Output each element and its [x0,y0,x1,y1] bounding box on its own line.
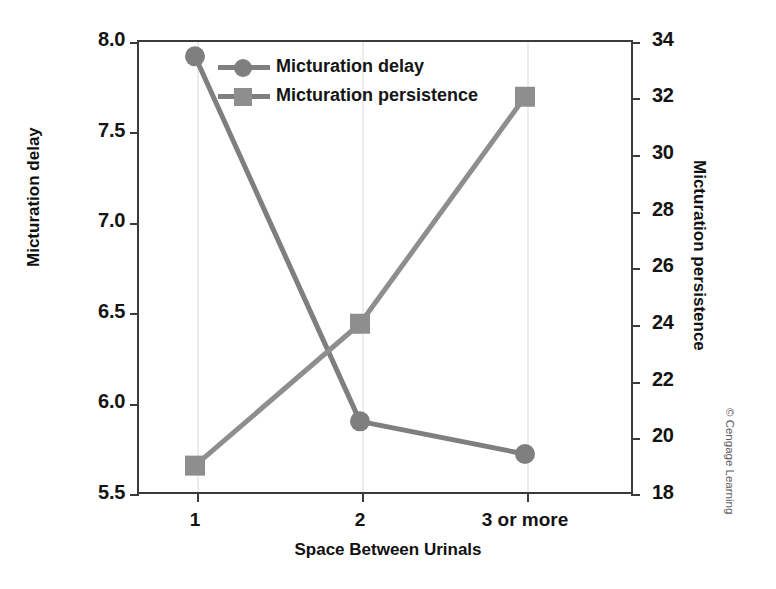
right-axis-tick [631,268,640,270]
left-tick-label: 6.0 [55,390,125,413]
gridline-vertical [527,42,529,492]
x-tick-label: 2 [355,509,366,531]
legend-item-micturation-delay: Micturation delay [218,52,478,81]
left-tick-label: 7.5 [55,119,125,142]
right-tick-label: 18 [652,481,722,504]
left-axis-tick [130,223,139,225]
left-tick-label: 6.5 [55,300,125,323]
right-tick-label: 20 [652,424,722,447]
x-axis-tick [197,492,199,502]
circle-marker-icon [234,59,252,77]
x-tick-label: 3 or more [482,509,569,531]
right-axis-tick [631,438,640,440]
legend-item-micturation-persistence: Micturation persistence [218,81,478,110]
left-tick-label: 7.0 [55,209,125,232]
right-axis-tick [631,382,640,384]
chart-figure: 8.0 7.5 7.0 6.5 6.0 5.5 34 32 30 28 26 2… [0,0,776,589]
right-tick-label: 28 [652,198,722,221]
legend-swatch-circle [218,57,270,77]
right-axis-tick [631,98,640,100]
chart-legend: Micturation delay Micturation persistenc… [218,52,478,110]
legend-label: Micturation delay [276,56,424,77]
x-axis-title: Space Between Urinals [0,540,776,560]
right-tick-label: 34 [652,28,722,51]
left-axis-tick [130,313,139,315]
legend-label: Micturation persistence [276,85,478,106]
right-axis-tick [631,212,640,214]
square-marker-icon [234,88,252,106]
left-tick-label: 5.5 [55,481,125,504]
legend-swatch-square [218,86,270,106]
right-tick-label: 24 [652,311,722,334]
right-axis-tick [631,325,640,327]
right-tick-label: 26 [652,254,722,277]
gridline-vertical [197,42,199,492]
left-axis-tick [130,132,139,134]
right-axis-title: Micturation persistence [689,160,709,351]
right-tick-label: 22 [652,368,722,391]
left-axis-tick [130,42,139,44]
left-tick-label: 8.0 [55,28,125,51]
right-axis-tick [631,155,640,157]
x-axis-tick [362,492,364,502]
right-tick-label: 32 [652,84,722,107]
right-axis-tick [631,42,640,44]
left-axis-title: Micturation delay [24,127,44,267]
right-axis-tick [631,494,640,496]
copyright-notice: © Cengage Learning [724,408,736,514]
left-axis-tick [130,494,139,496]
left-axis-tick [130,404,139,406]
right-tick-label: 30 [652,141,722,164]
x-tick-label: 1 [190,509,201,531]
x-axis-tick [527,492,529,502]
